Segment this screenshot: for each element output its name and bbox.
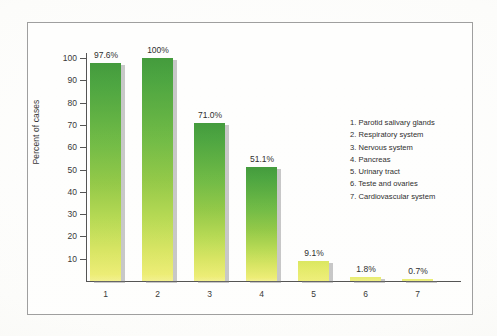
x-tick-label-6: 6 bbox=[350, 289, 381, 299]
bar[interactable] bbox=[246, 167, 277, 281]
bar[interactable] bbox=[350, 277, 381, 281]
legend-item-2: 2. Respiratory system bbox=[350, 129, 435, 141]
bar-value-label: 0.7% bbox=[393, 266, 443, 276]
bar-shadow bbox=[406, 281, 437, 283]
bar[interactable] bbox=[298, 261, 329, 281]
legend: 1. Parotid salivary glands2. Respiratory… bbox=[350, 117, 435, 203]
x-tick-label-1: 1 bbox=[90, 289, 121, 299]
bar[interactable] bbox=[142, 58, 173, 281]
bar-value-label: 9.1% bbox=[289, 248, 339, 258]
x-tick-label-7: 7 bbox=[402, 289, 433, 299]
legend-item-3: 3. Nervous system bbox=[350, 142, 435, 154]
bar[interactable] bbox=[90, 63, 121, 281]
x-tick-label-2: 2 bbox=[142, 289, 173, 299]
bar-value-label: 51.1% bbox=[237, 154, 287, 164]
x-tick-label-5: 5 bbox=[298, 289, 329, 299]
legend-item-4: 4. Pancreas bbox=[350, 154, 435, 166]
bar-value-label: 1.8% bbox=[341, 264, 391, 274]
figure-frame: Percent of cases 102030405060708090100 9… bbox=[27, 22, 473, 315]
bar-value-label: 97.6% bbox=[81, 50, 131, 60]
bar-value-label: 100% bbox=[133, 45, 183, 55]
bar-value-label: 71.0% bbox=[185, 110, 235, 120]
legend-item-5: 5. Urinary tract bbox=[350, 166, 435, 178]
x-tick-label-3: 3 bbox=[194, 289, 225, 299]
bar[interactable] bbox=[402, 279, 433, 281]
plot-area: Percent of cases 102030405060708090100 9… bbox=[28, 23, 474, 316]
legend-item-6: 6. Teste and ovaries bbox=[350, 178, 435, 190]
x-tick-label-4: 4 bbox=[246, 289, 277, 299]
legend-item-7: 7. Cardiovascular system bbox=[350, 191, 435, 203]
scan-surface: Percent of cases 102030405060708090100 9… bbox=[0, 0, 497, 336]
bar[interactable] bbox=[194, 123, 225, 281]
legend-item-1: 1. Parotid salivary glands bbox=[350, 117, 435, 129]
